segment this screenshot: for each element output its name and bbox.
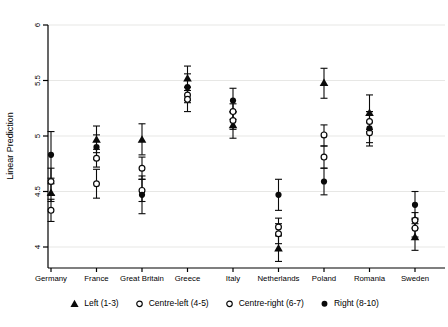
hollow-circle-marker [321,132,327,138]
filled-circle-marker [412,202,418,208]
triangle-filled-icon [69,298,80,309]
hollow-circle-marker [276,231,282,237]
legend-item: Centre-left (4-5) [134,298,209,309]
triangle-marker [183,74,192,82]
legend-item: Left (1-3) [69,298,119,309]
x-tick-label: Sweden [401,274,429,283]
y-tick-label: 4.5 [33,185,42,197]
legend: Left (1-3)Centre-left (4-5)Centre-right … [0,292,448,314]
hollow-circle-marker [139,165,145,171]
hollow-circle-marker [230,118,236,124]
x-tick-label: Greece [175,274,201,283]
x-tick-label: Italy [226,274,240,283]
hollow-circle-marker [136,301,142,307]
filled-circle-marker [184,84,190,90]
hollow-circle-marker [48,207,54,213]
filled-circle-marker [275,192,281,198]
legend-label: Right (8-10) [334,299,379,308]
hollow-circle-marker [276,224,282,230]
x-tick-label: Poland [312,274,336,283]
figure: 44.555.56Linear PredictionGermanyFranceG… [0,0,448,327]
x-tick-label: France [84,274,108,283]
hollow-circle-marker [185,96,191,102]
hollow-circle-marker [412,225,418,231]
hollow-circle-marker [412,217,418,223]
filled-circle-marker [321,178,327,184]
legend-item: Right (8-10) [319,298,379,309]
triangle-marker [365,108,374,116]
y-axis-title: Linear Prediction [5,112,15,180]
hollow-circle-marker [94,181,100,187]
filled-circle-marker [366,125,372,131]
hollow-circle-marker [226,301,232,307]
hollow-circle-marker [230,109,236,115]
x-tick-label: Great Britain [120,274,164,283]
legend-label: Left (1-3) [84,299,119,308]
legend-label: Centre-right (6-7) [239,299,304,308]
y-tick-label: 5.5 [33,74,42,86]
circle-filled-icon [319,298,330,309]
circle-hollow-icon [134,298,145,309]
filled-circle-marker [321,300,327,306]
filled-circle-marker [139,192,145,198]
y-tick-label: 5 [33,133,42,138]
y-tick-label: 4 [33,244,42,249]
x-tick-label: Netherlands [257,274,299,283]
x-tick-label: Romania [354,274,386,283]
legend-label: Centre-left (4-5) [149,299,209,308]
circle-hollow-icon [224,298,235,309]
hollow-circle-marker [321,154,327,160]
triangle-marker [71,299,79,306]
x-tick-label: Germany [35,274,67,283]
filled-circle-marker [48,152,54,158]
legend-item: Centre-right (6-7) [224,298,304,309]
hollow-circle-marker [48,179,54,185]
filled-circle-marker [230,97,236,103]
filled-circle-marker [93,144,99,150]
triangle-marker [274,244,283,252]
triangle-marker [320,79,329,87]
hollow-circle-marker [367,119,373,125]
hollow-circle-marker [94,155,100,161]
chart-canvas: 44.555.56Linear PredictionGermanyFranceG… [0,0,448,292]
y-tick-label: 6 [33,22,42,27]
